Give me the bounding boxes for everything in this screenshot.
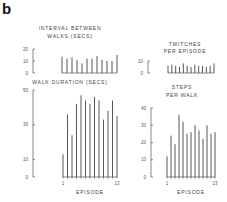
duration-y-tick-label: 0 [25, 175, 28, 180]
duration-x-axis-label: EPISODE [76, 189, 104, 195]
twitches-title-line: PER EPISODE [164, 48, 207, 54]
steps-y-tick-label: 0 [143, 175, 146, 180]
steps-y-tick-label: 10 [141, 157, 147, 162]
twitches-y-tick-label: 0 [140, 71, 143, 76]
duration-title-line: WALK DURATION (SECS) [32, 79, 107, 85]
steps-y-tick-label: 30 [141, 123, 147, 128]
steps-x-tick-label-last: 13 [212, 181, 218, 186]
steps-y-tick-label: 20 [141, 140, 147, 145]
interval-y-tick-label: 20 [23, 47, 29, 52]
steps-title-line: PER WALK [166, 92, 198, 98]
steps-x-axis-label: EPISODE [177, 189, 205, 195]
interval-title-line: WALKS (SECS) [47, 33, 92, 39]
interval-y-tick-label: 10 [23, 59, 29, 64]
steps-y-tick-label: 40 [141, 106, 147, 111]
duration-x-tick-label-last: 13 [114, 181, 120, 186]
figure: INTERVAL BETWEENWALKS (SECS)01020TWITCHE… [0, 0, 227, 202]
interval-y-tick-label: 0 [25, 71, 28, 76]
duration-y-tick-label: 50 [23, 88, 29, 93]
steps-title-line: STEPS [172, 84, 192, 90]
steps-x-tick-label-first: 1 [166, 181, 169, 186]
interval-title-line: INTERVAL BETWEEN [39, 25, 102, 31]
twitches-y-tick-label: 10 [138, 59, 144, 64]
duration-y-tick-label: 10 [23, 157, 29, 162]
duration-x-tick-label-first: 1 [62, 181, 65, 186]
twitches-title-line: TWITCHES [169, 41, 202, 47]
duration-y-tick-label: 30 [23, 122, 29, 127]
